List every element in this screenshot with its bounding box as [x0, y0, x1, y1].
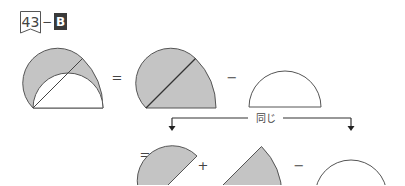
diagram-canvas: 43 − B = − 同じ = + [0, 0, 405, 185]
figure-sector-45deg [212, 147, 282, 186]
figure-white-semicircle [249, 71, 321, 107]
level-letter: B [56, 15, 65, 29]
minus-sign-row1: − [227, 70, 238, 85]
header-separator: − [42, 15, 52, 29]
level-badge: B [54, 13, 67, 30]
same-label: 同じ [256, 113, 276, 124]
figure-sector-with-semicircle [136, 48, 216, 108]
arrow-down-icon [169, 126, 176, 131]
figure-white-semicircle-row2 [315, 160, 387, 185]
minus-sign-row2: − [294, 158, 305, 173]
problem-number: 43 [22, 14, 40, 30]
problem-number-badge: 43 [21, 12, 41, 34]
figure-combined-shape [23, 48, 103, 108]
equals-sign-row1: = [112, 70, 123, 85]
arrow-down-icon [348, 126, 355, 131]
same-bracket: 同じ [169, 113, 355, 131]
plus-sign-row2: + [198, 158, 209, 173]
